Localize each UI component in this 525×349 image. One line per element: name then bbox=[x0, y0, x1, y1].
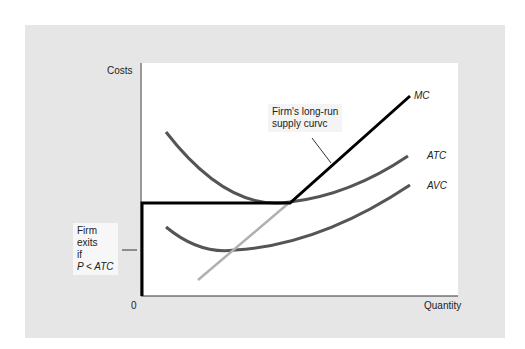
origin-label: 0 bbox=[131, 300, 137, 312]
supply-callout-line1: Firm's long-run bbox=[272, 106, 338, 118]
atc-label: ATC bbox=[427, 150, 446, 162]
exit-callout-line2: exits bbox=[77, 237, 114, 249]
atc-curve bbox=[166, 132, 408, 203]
supply-curve-callout: Firm's long-run supply curvc bbox=[268, 104, 342, 132]
chart-canvas bbox=[0, 0, 525, 349]
mc-label: MC bbox=[414, 90, 430, 102]
avc-curve bbox=[166, 185, 410, 251]
avc-label: AVC bbox=[427, 180, 447, 192]
supply-callout-line2: supply curvc bbox=[272, 118, 338, 130]
x-axis-label: Quantity bbox=[424, 300, 461, 312]
supply-callout-leader bbox=[312, 138, 331, 163]
exit-callout-line1: Firm bbox=[77, 225, 114, 237]
exit-callout: Firm exits if P < ATC bbox=[73, 223, 118, 275]
exit-callout-line4: P < ATC bbox=[77, 261, 114, 273]
mc-curve-lower bbox=[198, 202, 290, 280]
exit-callout-line3: if bbox=[77, 249, 114, 261]
y-axis-label: Costs bbox=[107, 65, 133, 77]
